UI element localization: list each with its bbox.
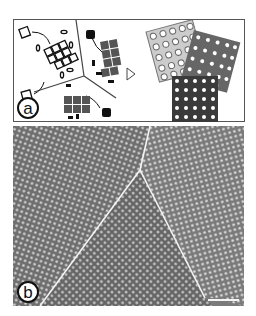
panel-label-a: a xyxy=(17,97,39,119)
panel-b-micrograph: b xyxy=(13,126,244,306)
arrow-right-icon xyxy=(127,68,135,80)
panel-a-schematic: a xyxy=(13,19,245,122)
panel-label-b: b xyxy=(17,281,39,303)
schematic-illustration xyxy=(14,20,246,123)
grey-tile-cluster xyxy=(86,30,123,83)
open-tile-cluster xyxy=(19,27,78,101)
dark-domain xyxy=(172,76,218,122)
micrograph-image xyxy=(13,126,244,306)
